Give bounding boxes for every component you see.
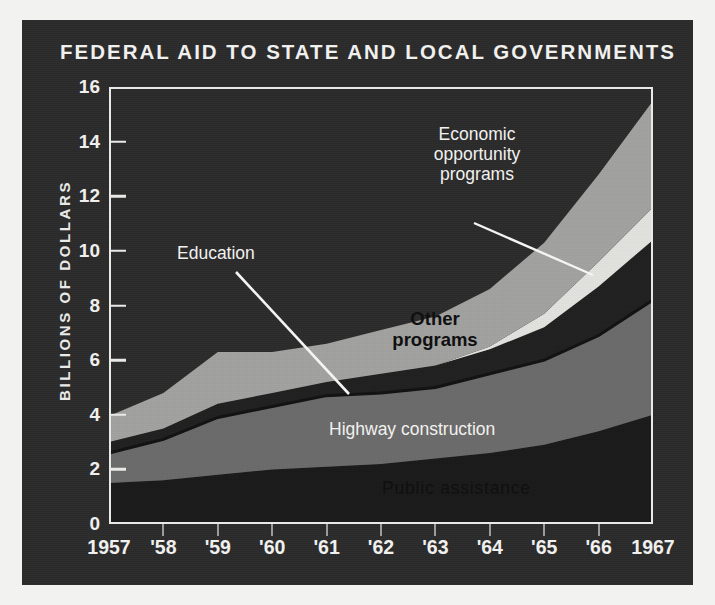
page-title: FEDERAL AID TO STATE AND LOCAL GOVERNMEN… (60, 40, 676, 64)
annotation-education: Education (177, 244, 255, 264)
x-tick-label-62: '62 (368, 536, 394, 559)
y-tick-mark-12 (109, 195, 126, 198)
plot-area (109, 87, 653, 524)
y-tick-label-14: 14 (79, 131, 100, 153)
x-tick-label-63: '63 (422, 536, 448, 559)
x-tick-label-60: '60 (259, 536, 285, 559)
x-tick-mark-65 (543, 524, 545, 536)
x-tick-mark-64 (489, 524, 491, 536)
y-axis-label: BILLIONS OF DOLLARS (56, 171, 73, 411)
x-tick-mark-58 (162, 524, 164, 536)
y-tick-label-4: 4 (89, 404, 100, 426)
x-tick-mark-62 (380, 524, 382, 536)
x-tick-label-65: '65 (531, 536, 557, 559)
y-tick-mark-10 (109, 250, 126, 253)
annotation-other-programs: Other programs (380, 308, 490, 350)
y-tick-mark-6 (109, 359, 126, 362)
y-tick-mark-4 (109, 414, 126, 417)
y-tick-label-10: 10 (79, 240, 100, 262)
x-tick-mark-63 (434, 524, 436, 536)
y-tick-mark-14 (109, 140, 126, 143)
x-tick-mark-61 (326, 524, 328, 536)
chart-panel: FEDERAL AID TO STATE AND LOCAL GOVERNMEN… (22, 20, 693, 585)
y-tick-mark-2 (109, 468, 126, 471)
annotation-highway-construction: Highway construction (329, 420, 495, 440)
x-tick-mark-66 (598, 524, 600, 536)
x-tick-label-64: '64 (477, 536, 503, 559)
x-tick-mark-59 (217, 524, 219, 536)
y-tick-label-0: 0 (89, 513, 100, 535)
annotation-economic-opportunity: Economic opportunity programs (402, 125, 552, 185)
chart-page: FEDERAL AID TO STATE AND LOCAL GOVERNMEN… (0, 0, 715, 605)
x-tick-label-1957: 1957 (87, 536, 130, 559)
y-tick-label-16: 16 (79, 76, 100, 98)
y-tick-mark-8 (109, 304, 126, 307)
x-tick-label-1967: 1967 (631, 536, 674, 559)
x-tick-label-66: '66 (585, 536, 611, 559)
annotation-public-assistance: Public assistance (382, 479, 531, 499)
x-tick-mark-60 (271, 524, 273, 536)
y-tick-label-12: 12 (79, 185, 100, 207)
stacked-area-series (109, 87, 653, 524)
x-tick-label-59: '59 (205, 536, 231, 559)
x-tick-label-61: '61 (313, 536, 339, 559)
y-tick-label-8: 8 (89, 295, 100, 317)
y-tick-label-6: 6 (89, 349, 100, 371)
x-tick-label-58: '58 (150, 536, 176, 559)
y-tick-label-2: 2 (89, 458, 100, 480)
